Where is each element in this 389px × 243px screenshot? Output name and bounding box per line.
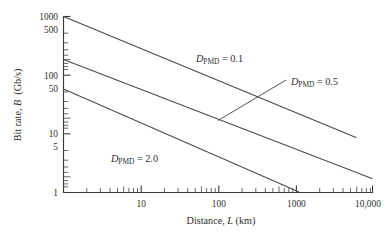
annotation-subscript-0-5: PMD — [298, 80, 315, 89]
y-tick-label-1000: 1000 — [39, 12, 58, 22]
x-axis-title-prefix: Distance, — [187, 215, 228, 226]
chart-background — [0, 0, 389, 243]
y-axis-title-prefix: Bit rate, — [12, 106, 23, 141]
x-tick-label-10000: 10,000 — [355, 199, 381, 209]
x-tick-label-10: 10 — [137, 199, 147, 209]
y-tick-label-1: 1 — [53, 188, 58, 198]
x-tick-label-1000: 1000 — [287, 199, 306, 209]
annotation-value-0-5: 0.5 — [325, 76, 338, 87]
annotation-value-2-0: 2.0 — [145, 153, 158, 164]
annotation-subscript-2-0: PMD — [118, 157, 135, 166]
x-tick-label-100: 100 — [212, 199, 226, 209]
x-axis-title-suffix: (km) — [233, 215, 255, 227]
y-tick-label-5: 5 — [53, 142, 58, 152]
y-tick-label-50: 50 — [49, 84, 59, 94]
y-axis-title: Bit rate, B (Gb/s) — [12, 69, 24, 142]
y-axis-title-suffix: (Gb/s) — [12, 69, 24, 100]
bit-rate-vs-distance-chart: 1000 500 100 50 10 5 1 10 100 1000 10,00… — [0, 0, 389, 243]
annotation-subscript-0-1: PMD — [203, 57, 220, 66]
y-tick-label-10: 10 — [49, 129, 59, 139]
chart-figure: 1000 500 100 50 10 5 1 10 100 1000 10,00… — [0, 0, 389, 243]
annotation-value-0-1: 0.1 — [230, 53, 243, 64]
y-tick-label-500: 500 — [44, 25, 58, 35]
x-axis-title: Distance, L (km) — [187, 215, 256, 227]
y-tick-label-100: 100 — [44, 71, 58, 81]
